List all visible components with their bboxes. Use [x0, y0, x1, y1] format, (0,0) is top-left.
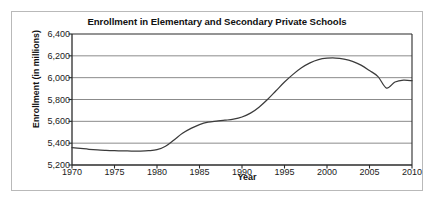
enrollment-line-series — [72, 58, 412, 151]
y-axis-tick-label: 6,000 — [30, 73, 70, 83]
x-axis-label: Year — [72, 172, 422, 182]
y-axis-tick-label: 6,400 — [30, 29, 70, 39]
y-axis-tick-label: 5,800 — [30, 95, 70, 105]
y-axis-tick-label: 5,400 — [30, 138, 70, 148]
y-axis-tick-label: 6,200 — [30, 51, 70, 61]
chart-title: Enrollment in Elementary and Secondary P… — [12, 16, 422, 27]
gridlines — [69, 34, 413, 165]
y-axis-tick-label: 5,600 — [30, 116, 70, 126]
plot-area: 197019751980198519901995200020052010 — [72, 34, 412, 165]
line-chart-svg — [72, 34, 412, 165]
chart-figure: Enrollment in Elementary and Secondary P… — [11, 11, 423, 191]
y-axis-tick-labels: 5,2005,4005,6005,8006,0006,2006,400 — [26, 34, 70, 165]
